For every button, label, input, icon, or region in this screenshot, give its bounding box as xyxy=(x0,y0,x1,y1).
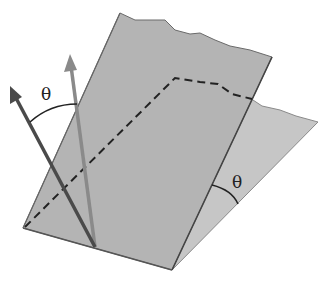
diagram-canvas: θ θ xyxy=(0,0,335,281)
angle-arc-top xyxy=(30,104,77,122)
theta-label-right: θ xyxy=(232,172,242,192)
theta-label-top: θ xyxy=(41,84,51,104)
